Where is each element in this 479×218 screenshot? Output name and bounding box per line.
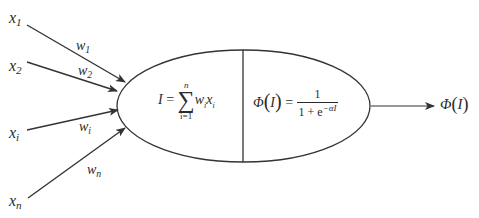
sigma-block: n ∑ i=1 <box>178 81 195 121</box>
weight-symbol: w <box>76 38 85 53</box>
weight-label-wn: wn <box>87 163 101 179</box>
weight-label-w2: w2 <box>78 64 92 80</box>
input-subscript: 2 <box>16 64 22 76</box>
summation-formula: I = n ∑ i=1 wixi <box>158 81 215 121</box>
fraction-denominator: 1 + e−αI <box>297 104 339 120</box>
sum-term-x-sub: i <box>212 101 214 110</box>
input-label-xi: xi <box>9 125 19 144</box>
figure-caption-clipped <box>160 209 320 218</box>
output-phi: Φ <box>440 96 451 112</box>
sum-equals: = <box>166 92 174 107</box>
sigma-icon: ∑ <box>178 90 195 112</box>
weight-subscript: 2 <box>87 69 92 80</box>
sigma-lower-limit: i=1 <box>180 112 192 121</box>
phi-symbol: Φ <box>253 95 264 110</box>
input-arrow-x2 <box>27 62 117 91</box>
input-label-x2: x2 <box>9 58 22 77</box>
weight-subscript: n <box>96 168 101 179</box>
sum-term-w: w <box>195 92 204 107</box>
output-label: Φ(I) <box>440 95 468 113</box>
weight-subscript: i <box>88 125 91 136</box>
weight-subscript: 1 <box>85 44 90 55</box>
weight-label-wi: wi <box>79 120 91 136</box>
input-label-x1: x1 <box>9 10 22 29</box>
activation-formula: Φ(I) = 1 1 + e−αI <box>253 88 338 120</box>
weight-symbol: w <box>78 63 87 78</box>
input-label-xn: xn <box>9 193 22 212</box>
output-close-paren: ) <box>462 94 468 114</box>
input-arrow-xi <box>27 110 118 130</box>
close-paren: ) <box>275 90 282 112</box>
input-arrow-xn <box>28 128 125 198</box>
weight-label-w1: w1 <box>76 39 90 55</box>
weight-symbol: w <box>79 119 88 134</box>
input-subscript: n <box>16 199 22 211</box>
neuron-diagram <box>0 0 479 218</box>
fraction-numerator: 1 <box>313 88 323 101</box>
activation-equals: = <box>285 95 293 110</box>
sigmoid-fraction: 1 1 + e−αI <box>297 88 339 120</box>
denominator-exponent: −αI <box>323 103 337 113</box>
sum-lhs: I <box>158 92 163 107</box>
weight-symbol: w <box>87 162 96 177</box>
denominator-base: 1 + e <box>299 106 323 120</box>
input-subscript: i <box>16 131 19 143</box>
input-subscript: 1 <box>16 16 22 28</box>
